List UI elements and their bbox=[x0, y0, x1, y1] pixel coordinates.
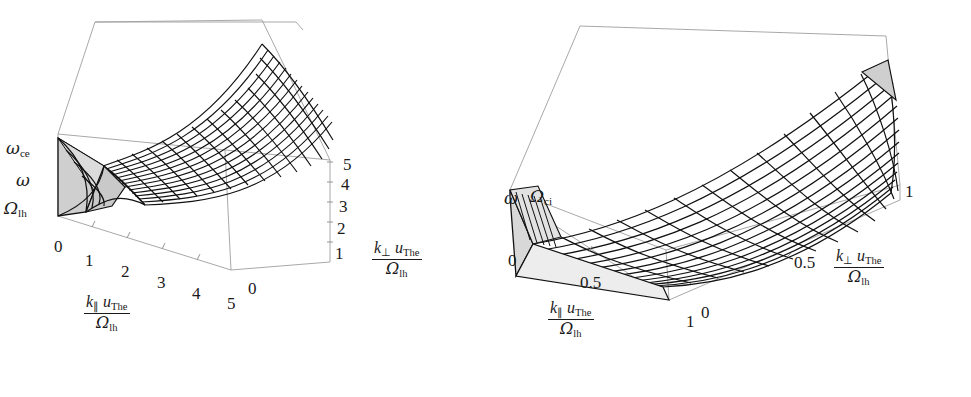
right-z-axis-label: ω bbox=[504, 190, 518, 207]
left-surface-mesh bbox=[103, 44, 333, 205]
left-y-axis-label: k⊥ uThe Ωlh bbox=[372, 240, 422, 279]
left-y-tick-0: 0 bbox=[248, 280, 257, 297]
left-x-axis-label: k∥ uThe Ωlh bbox=[84, 294, 130, 333]
right-y-tick-0: 0 bbox=[701, 304, 710, 321]
left-origin-funnel-shade bbox=[58, 138, 145, 216]
left-z-top-tick: ωce bbox=[6, 140, 30, 159]
left-y-tick-1: 1 bbox=[335, 245, 344, 262]
left-y-tick-5: 5 bbox=[343, 156, 352, 173]
figure-root: ωce ω Ωlh 0 1 2 3 4 5 0 1 2 3 4 5 k∥ uTh… bbox=[0, 0, 971, 397]
left-y-tick-3: 3 bbox=[339, 198, 348, 215]
right-z-top-tick: Ωci bbox=[530, 188, 552, 207]
left-z-axis-label: ω bbox=[16, 172, 30, 189]
surface-plot-left: ωce ω Ωlh 0 1 2 3 4 5 0 1 2 3 4 5 k∥ uTh… bbox=[0, 0, 486, 397]
right-y-tick-05: 0.5 bbox=[794, 254, 815, 271]
right-y-axis-label: k⊥ uThe Ωlh bbox=[834, 248, 884, 287]
surface-plot-right: ω Ωci 0 0.5 1 0 0.5 1 k∥ uThe Ωlh k⊥ uTh… bbox=[486, 0, 971, 397]
left-x-tick-3: 3 bbox=[157, 274, 166, 291]
left-x-tick-4: 4 bbox=[192, 285, 201, 302]
left-x-tick-0: 0 bbox=[54, 238, 63, 255]
left-y-tick-2: 2 bbox=[337, 220, 346, 237]
left-x-tick-1: 1 bbox=[85, 252, 94, 269]
right-y-tick-1: 1 bbox=[905, 183, 914, 200]
left-x-tick-5: 5 bbox=[227, 295, 236, 312]
left-plot-canvas bbox=[0, 0, 486, 397]
right-x-axis-label: k∥ uThe Ωlh bbox=[548, 300, 594, 339]
right-x-tick-05: 0.5 bbox=[580, 274, 601, 291]
left-y-tick-4: 4 bbox=[341, 176, 350, 193]
right-z-bottom-tick: 0 bbox=[508, 252, 517, 269]
left-z-bottom-tick: Ωlh bbox=[4, 200, 27, 219]
left-x-tick-2: 2 bbox=[121, 263, 130, 280]
right-x-tick-1: 1 bbox=[686, 313, 695, 330]
left-x-axis-ticks bbox=[92, 221, 200, 260]
